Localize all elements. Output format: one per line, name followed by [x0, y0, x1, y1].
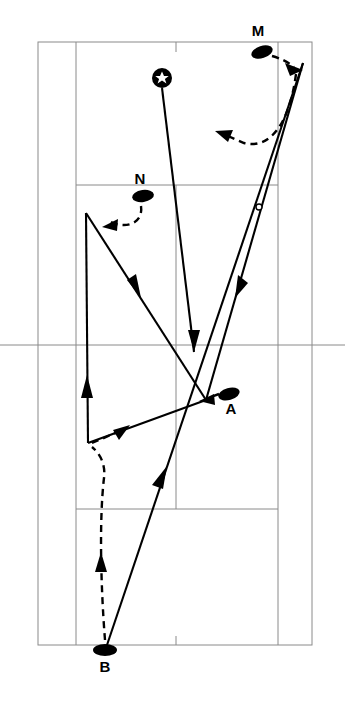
tennis-court-diagram: M N A B [0, 0, 345, 706]
shot-near-left-upward [86, 213, 88, 443]
shot-b-arrow-head [152, 466, 167, 489]
server-position [152, 68, 172, 88]
near-left-advance-arrow-head [113, 425, 130, 440]
n-movement-arrow-head [102, 219, 118, 231]
b-movement-arrow-head [95, 552, 107, 572]
recovery-curve-toward-centre [228, 74, 296, 144]
player-movement-paths [92, 56, 303, 640]
ball-bounce-point [256, 204, 262, 210]
serve-arrow-head [188, 330, 200, 352]
player-label-n: N [135, 170, 146, 187]
court-svg: M N A B [0, 0, 345, 706]
shot-corner-arrow-head [235, 275, 248, 298]
player-label-b: B [100, 658, 111, 675]
player-marker-n [131, 189, 154, 204]
player-marker-m [250, 43, 275, 61]
player-markers: M N A B [93, 22, 274, 675]
player-label-m: M [252, 22, 265, 39]
player-label-a: A [226, 400, 237, 417]
ball-trajectories [81, 63, 303, 648]
recovery-arrow-head [215, 130, 233, 142]
shot-corner-to-midcourt-a [206, 63, 303, 400]
serve-from-star-to-midcourt [162, 88, 194, 352]
shot-upper-left-arrow-head [127, 274, 141, 298]
player-marker-b [93, 644, 117, 656]
shot-b-to-far-corner [106, 63, 303, 648]
b-movement-up-court [92, 447, 105, 640]
shot-upward-arrow-head [81, 375, 93, 398]
court-lines [0, 42, 345, 645]
doubles-court-outline [38, 42, 312, 645]
